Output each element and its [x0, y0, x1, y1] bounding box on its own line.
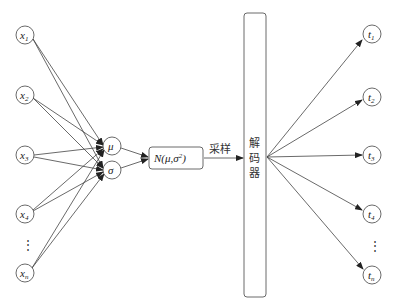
- input-node-x4: x4: [16, 205, 34, 223]
- decoder-box: 解 码 器: [244, 13, 266, 297]
- mu-node: μ: [103, 137, 121, 155]
- output-node-t3: t3: [363, 146, 381, 164]
- input-node-xn: xn: [16, 264, 34, 282]
- output-nodes: t1 t2 t3 t4 ⋮ tn: [363, 25, 381, 284]
- svg-text:解: 解: [249, 136, 260, 150]
- input-nodes: x1 x2 x3 x4 ⋮ xn: [16, 26, 34, 282]
- output-node-t2: t2: [363, 88, 381, 106]
- latent-nodes: μ σ: [103, 137, 121, 179]
- svg-text:N(μ,σ2): N(μ,σ2): [153, 152, 186, 165]
- svg-text:码: 码: [249, 152, 260, 165]
- input-node-x2: x2: [16, 86, 34, 104]
- normal-distribution-box: N(μ,σ2): [149, 147, 203, 169]
- sigma-node: σ: [103, 161, 121, 179]
- svg-text:σ: σ: [108, 164, 114, 176]
- input-edges: [32, 39, 104, 268]
- vae-diagram: x1 x2 x3 x4 ⋮ xn μ: [0, 0, 396, 308]
- input-ellipsis: ⋮: [22, 238, 34, 252]
- output-edges: [267, 40, 363, 269]
- input-node-x3: x3: [16, 146, 34, 164]
- svg-text:μ: μ: [107, 140, 114, 152]
- output-node-tn: tn: [363, 266, 381, 284]
- output-node-t1: t1: [363, 25, 381, 43]
- output-node-t4: t4: [363, 205, 381, 223]
- output-ellipsis: ⋮: [369, 239, 381, 253]
- svg-text:器: 器: [249, 167, 260, 180]
- diagram-svg: x1 x2 x3 x4 ⋮ xn μ: [0, 0, 396, 308]
- input-node-x1: x1: [16, 26, 34, 44]
- sample-label: 采样: [209, 142, 231, 156]
